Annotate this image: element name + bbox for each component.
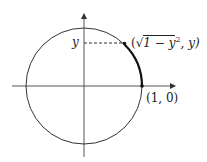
point-1-0-label: (1, 0): [146, 92, 178, 104]
unit-circle-diagram: [0, 0, 207, 162]
sqrt-body: 1 − y: [143, 35, 175, 50]
y-tick-label: y: [72, 36, 79, 48]
highlighted-arc: [125, 45, 143, 87]
point-sqrt: [123, 42, 127, 46]
point-1-0: [140, 84, 144, 88]
point-sqrt-label: (√1 − y2, y): [131, 36, 200, 49]
paren-tail: , y): [181, 36, 200, 50]
